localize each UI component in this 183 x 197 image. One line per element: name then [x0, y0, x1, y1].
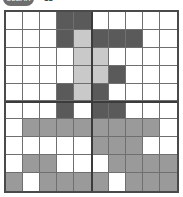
board-cell[interactable] [6, 48, 23, 66]
board-cell[interactable] [74, 66, 91, 84]
board-cell[interactable] [23, 48, 40, 66]
board-cell[interactable] [57, 119, 74, 137]
board-cell[interactable] [143, 101, 160, 119]
board-cell[interactable] [160, 173, 177, 191]
board-cell[interactable] [160, 30, 177, 48]
board-cell[interactable] [57, 173, 74, 191]
board-cell[interactable] [92, 119, 109, 137]
board-cell[interactable] [160, 119, 177, 137]
board-cell[interactable] [74, 48, 91, 66]
board-cell[interactable] [23, 66, 40, 84]
board-cell[interactable] [40, 66, 57, 84]
board-cell[interactable] [23, 155, 40, 173]
board-cell[interactable] [109, 12, 126, 30]
board-cell[interactable] [57, 84, 74, 102]
board-cell[interactable] [40, 155, 57, 173]
board-cell[interactable] [57, 12, 74, 30]
board-cell[interactable] [126, 66, 143, 84]
board-cell[interactable] [143, 155, 160, 173]
board-cell[interactable] [23, 119, 40, 137]
board-cell[interactable] [92, 155, 109, 173]
board-cell[interactable] [126, 84, 143, 102]
board-cell[interactable] [23, 137, 40, 155]
board-cell[interactable] [160, 137, 177, 155]
board-cell[interactable] [74, 155, 91, 173]
board-cell[interactable] [109, 155, 126, 173]
puzzle-board[interactable] [4, 10, 179, 193]
board-cell[interactable] [92, 84, 109, 102]
board-cell[interactable] [6, 30, 23, 48]
board-cell[interactable] [92, 173, 109, 191]
board-cell[interactable] [57, 48, 74, 66]
board-cell[interactable] [160, 101, 177, 119]
board-cell[interactable] [40, 48, 57, 66]
board-cell[interactable] [23, 173, 40, 191]
board-cell[interactable] [6, 119, 23, 137]
board-cell[interactable] [109, 84, 126, 102]
board-cell[interactable] [23, 84, 40, 102]
board-cell[interactable] [57, 137, 74, 155]
board-cell[interactable] [6, 66, 23, 84]
board-cell[interactable] [143, 137, 160, 155]
board-cell[interactable] [126, 12, 143, 30]
board-cell[interactable] [109, 48, 126, 66]
board-cell[interactable] [40, 101, 57, 119]
board-cell[interactable] [109, 137, 126, 155]
board-cell[interactable] [74, 84, 91, 102]
board-cell[interactable] [40, 12, 57, 30]
board-cell[interactable] [23, 101, 40, 119]
board-cell[interactable] [92, 137, 109, 155]
board-cell[interactable] [109, 66, 126, 84]
board-cell[interactable] [23, 12, 40, 30]
board-cell[interactable] [126, 101, 143, 119]
board-cell[interactable] [57, 101, 74, 119]
board-cell[interactable] [126, 155, 143, 173]
board-cell[interactable] [126, 137, 143, 155]
board-cell[interactable] [160, 84, 177, 102]
board-cell[interactable] [109, 30, 126, 48]
board-cell[interactable] [57, 66, 74, 84]
board-cell[interactable] [126, 173, 143, 191]
board-cell[interactable] [6, 155, 23, 173]
board-cell[interactable] [6, 137, 23, 155]
board-cell[interactable] [6, 12, 23, 30]
board-cell[interactable] [23, 30, 40, 48]
board-cell[interactable] [40, 30, 57, 48]
board-cell[interactable] [74, 119, 91, 137]
board-cell[interactable] [6, 84, 23, 102]
board-cell[interactable] [40, 119, 57, 137]
board-cell[interactable] [74, 173, 91, 191]
board-cell[interactable] [143, 84, 160, 102]
board-cell[interactable] [6, 173, 23, 191]
board-cell[interactable] [109, 173, 126, 191]
board-cell[interactable] [74, 30, 91, 48]
board-cell[interactable] [92, 48, 109, 66]
board-cell[interactable] [40, 173, 57, 191]
board-cell[interactable] [160, 48, 177, 66]
board-cell[interactable] [92, 30, 109, 48]
board-cell[interactable] [143, 30, 160, 48]
board-cell[interactable] [160, 155, 177, 173]
board-cell[interactable] [92, 12, 109, 30]
board-cell[interactable] [126, 48, 143, 66]
board-cell[interactable] [143, 173, 160, 191]
board-cell[interactable] [126, 119, 143, 137]
board-cell[interactable] [74, 101, 91, 119]
board-cell[interactable] [57, 155, 74, 173]
board-cell[interactable] [126, 30, 143, 48]
board-cell[interactable] [40, 84, 57, 102]
board-cell[interactable] [57, 30, 74, 48]
board-cell[interactable] [74, 137, 91, 155]
board-cell[interactable] [109, 119, 126, 137]
board-cell[interactable] [40, 137, 57, 155]
board-cell[interactable] [143, 12, 160, 30]
board-cell[interactable] [143, 119, 160, 137]
board-cell[interactable] [109, 101, 126, 119]
board-cell[interactable] [6, 101, 23, 119]
board-cell[interactable] [74, 12, 91, 30]
board-cell[interactable] [92, 66, 109, 84]
board-cell[interactable] [160, 12, 177, 30]
board-cell[interactable] [92, 101, 109, 119]
board-cell[interactable] [160, 66, 177, 84]
clear-button[interactable]: CLEAR [3, 0, 34, 6]
